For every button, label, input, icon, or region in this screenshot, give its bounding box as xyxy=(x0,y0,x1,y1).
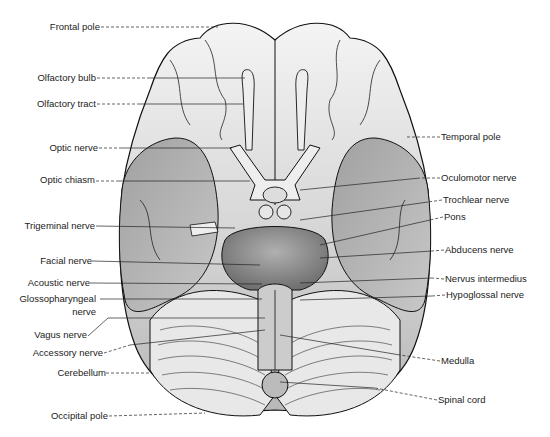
label-hypoglossal-nerve: Hypoglossal nerve xyxy=(446,289,524,300)
spinal-cord xyxy=(262,372,288,398)
label-optic-nerve: Optic nerve xyxy=(49,142,98,153)
label-oculomotor-nerve: Oculomotor nerve xyxy=(441,172,517,183)
label-trigeminal-nerve: Trigeminal nerve xyxy=(25,220,95,231)
label-trochlear-nerve: Trochlear nerve xyxy=(443,194,509,205)
label-olfactory-bulb: Olfactory bulb xyxy=(37,72,96,83)
label-facial-nerve: Facial nerve xyxy=(40,255,92,266)
label-occipital-pole: Occipital pole xyxy=(51,410,108,421)
label-temporal-pole: Temporal pole xyxy=(441,131,501,142)
label-medulla: Medulla xyxy=(441,355,474,366)
label-pons: Pons xyxy=(444,211,466,222)
label-accessory-nerve: Accessory nerve xyxy=(33,347,103,358)
label-vagus-nerve: Vagus nerve xyxy=(34,329,87,340)
label-frontal-pole: Frontal pole xyxy=(50,21,100,32)
pons xyxy=(222,227,328,291)
label-glossopharyngeal-nerve: Glossopharyngeal xyxy=(19,293,96,304)
label-acoustic-nerve: Acoustic nerve xyxy=(28,277,90,288)
label-spinal-cord: Spinal cord xyxy=(438,394,486,405)
cerebellum xyxy=(150,290,275,415)
label-optic-chiasm: Optic chiasm xyxy=(40,174,95,185)
brain-diagram: Frontal pole Olfactory bulb Olfactory tr… xyxy=(0,0,550,437)
label-nervus-intermedius: Nervus intermedius xyxy=(445,273,527,284)
label-glossopharyngeal-nerve-line2: nerve xyxy=(72,306,96,317)
label-olfactory-tract: Olfactory tract xyxy=(37,98,96,109)
label-abducens-nerve: Abducens nerve xyxy=(445,244,514,255)
label-cerebellum: Cerebellum xyxy=(57,367,106,378)
